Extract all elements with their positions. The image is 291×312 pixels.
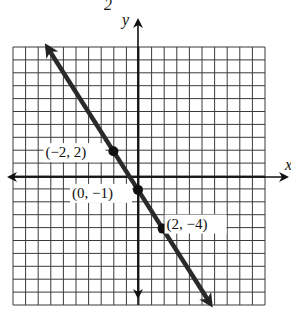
graph: 2 y x (−2, 2)(0, −1)(2, −4) bbox=[0, 0, 291, 312]
point-label: (2, −4) bbox=[167, 216, 208, 233]
y-axis-label: y bbox=[120, 11, 130, 29]
data-point bbox=[108, 146, 118, 156]
point-label: (−2, 2) bbox=[45, 144, 86, 161]
point-label: (0, −1) bbox=[72, 185, 113, 202]
grid bbox=[13, 47, 265, 305]
top-fragment-label: 2 bbox=[104, 0, 112, 13]
data-point bbox=[133, 185, 143, 195]
x-axis-label: x bbox=[284, 156, 291, 173]
